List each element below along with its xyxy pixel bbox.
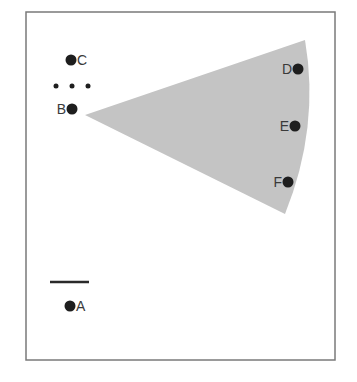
- point-label: D: [282, 61, 292, 77]
- point-b: B: [57, 101, 78, 117]
- point-label: E: [280, 118, 289, 134]
- point-a: A: [65, 298, 87, 314]
- ellipsis-dot: [70, 84, 75, 89]
- point-label: C: [77, 52, 87, 68]
- point-dot: [290, 121, 301, 132]
- ellipsis-dots: [54, 84, 91, 89]
- point-dot: [67, 104, 78, 115]
- point-label: A: [76, 298, 86, 314]
- point-label: B: [57, 101, 66, 117]
- ellipsis-dot: [54, 84, 59, 89]
- point-label: F: [273, 174, 282, 190]
- diagram-canvas: CBDEFA: [0, 0, 357, 382]
- point-c: C: [66, 52, 88, 68]
- point-dot: [66, 55, 77, 66]
- point-dot: [65, 301, 76, 312]
- point-dot: [293, 64, 304, 75]
- point-dot: [283, 177, 294, 188]
- ellipsis-dot: [86, 84, 91, 89]
